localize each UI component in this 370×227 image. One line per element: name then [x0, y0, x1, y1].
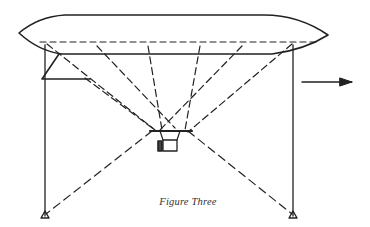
left-brace: [42, 54, 90, 79]
direction-arrow-icon: [302, 78, 352, 86]
airship-diagram: [0, 0, 370, 227]
propeller-icon: [158, 141, 162, 151]
balloon-envelope: [19, 15, 328, 54]
gondola: [150, 131, 192, 151]
figure-caption: Figure Three: [0, 196, 370, 207]
mooring-lines: [47, 44, 292, 132]
